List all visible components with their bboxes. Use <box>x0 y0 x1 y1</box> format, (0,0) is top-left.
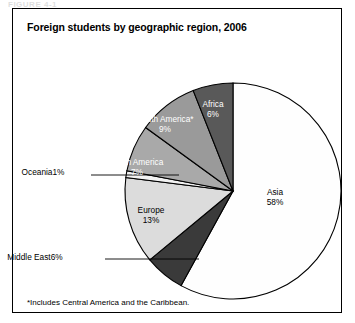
pie-chart: Asia58%Middle East6%Europe13%Oceania1%No… <box>13 9 343 314</box>
slice-label-name-europe: Europe <box>138 205 165 215</box>
figure-frame: Foreign students by geographic region, 2… <box>12 8 342 313</box>
slice-label-middle-east: Middle East6% <box>0 252 75 262</box>
slice-label-europe: Europe13% <box>111 205 191 225</box>
slice-label-name-middle-east: Middle East <box>7 252 50 262</box>
slice-label-oceania: Oceania1% <box>3 167 83 177</box>
slice-label-value-middle-east: 6% <box>51 252 63 262</box>
slice-label-value-asia: 58% <box>235 197 315 207</box>
slice-label-name-asia: Asia <box>267 187 283 197</box>
slice-label-africa: Africa6% <box>173 99 253 119</box>
slice-label-value-europe: 13% <box>111 215 191 225</box>
slice-label-asia: Asia58% <box>235 187 315 207</box>
slice-label-value-north-america: 7% <box>97 167 177 177</box>
slice-label-name-north-america: North America <box>111 157 164 167</box>
chart-footnote: *Includes Central America and the Caribb… <box>27 298 189 307</box>
clipped-figure-caption: FIGURE 4-1 <box>8 0 78 7</box>
slice-label-name-africa: Africa <box>202 99 223 109</box>
slice-label-name-oceania: Oceania <box>22 167 53 177</box>
slice-label-north-america: North America7% <box>97 157 177 177</box>
pie-chart-svg <box>13 9 343 314</box>
slice-label-value-africa: 6% <box>173 109 253 119</box>
slice-label-value-oceania: 1% <box>52 167 64 177</box>
slice-label-value-south-america: 9% <box>125 124 205 134</box>
